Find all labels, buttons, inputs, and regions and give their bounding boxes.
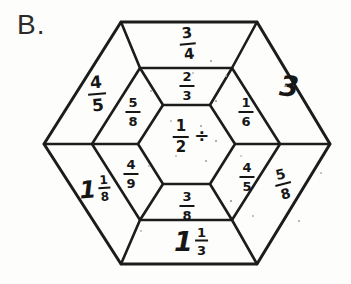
whole-number: 1 — [174, 228, 193, 255]
fraction: 4 9 — [123, 158, 138, 190]
center-fraction-denominator: 2 — [176, 138, 186, 155]
numerator: 1 — [97, 173, 110, 189]
center-cell: 1 2 ÷ — [173, 119, 210, 155]
denominator: 5 — [242, 178, 251, 193]
numerator: 5 — [125, 96, 140, 113]
middle-cell-bottom: 3 8 — [179, 190, 194, 222]
fraction: 1 6 — [238, 96, 253, 128]
denominator: 8 — [279, 184, 292, 202]
denominator: 3 — [182, 87, 191, 102]
numerator: 4 — [239, 161, 254, 178]
numerator: 1 — [238, 96, 253, 113]
fraction: 4 5 — [239, 161, 254, 193]
scan-noise-specks — [210, 60, 212, 62]
fraction: 1 8 — [97, 173, 111, 203]
outer-cell-upper-left: 4 5 — [86, 73, 107, 114]
spoke-top-left — [121, 22, 163, 105]
denominator: 8 — [100, 189, 109, 204]
worksheet-scan: B. 1 2 ÷ 2 3 1 6 — [0, 0, 351, 284]
denominator: 8 — [128, 113, 137, 128]
numerator: 4 — [123, 158, 138, 175]
center-fraction-numerator: 1 — [173, 119, 189, 138]
outer-cell-bottom: 1 1 3 — [174, 226, 208, 257]
middle-cell-upper-left: 5 8 — [125, 96, 140, 128]
fraction: 4 5 — [86, 73, 107, 114]
denominator: 4 — [183, 44, 195, 62]
division-operator: ÷ — [194, 127, 209, 147]
outer-cell-lower-left: 1 1 8 — [78, 173, 111, 204]
numerator: 4 — [86, 73, 106, 95]
fraction: 1 3 — [195, 226, 208, 257]
fraction: 5 8 — [125, 96, 140, 128]
numerator: 3 — [178, 25, 196, 46]
denominator: 8 — [182, 207, 191, 222]
numerator: 2 — [179, 70, 194, 87]
outer-cell-upper-right: 3 — [278, 72, 299, 101]
denominator: 5 — [91, 94, 104, 114]
fraction: 3 8 — [179, 190, 194, 222]
denominator: 3 — [197, 242, 206, 257]
spoke-bottom-left — [121, 184, 163, 264]
middle-cell-upper-right: 1 6 — [238, 96, 253, 128]
spoke-top-right — [210, 22, 257, 105]
whole-number: 3 — [278, 72, 299, 101]
whole-number: 1 — [79, 177, 97, 202]
center-fraction: 1 2 — [173, 119, 189, 155]
numerator: 1 — [195, 226, 208, 242]
denominator: 9 — [126, 175, 135, 190]
middle-cell-top: 2 3 — [179, 70, 194, 102]
spoke-bottom-right — [210, 184, 257, 264]
denominator: 6 — [241, 113, 250, 128]
middle-cell-lower-right: 4 5 — [239, 161, 254, 193]
middle-cell-lower-left: 4 9 — [123, 158, 138, 190]
numerator: 3 — [179, 190, 194, 207]
fraction: 2 3 — [179, 70, 194, 102]
